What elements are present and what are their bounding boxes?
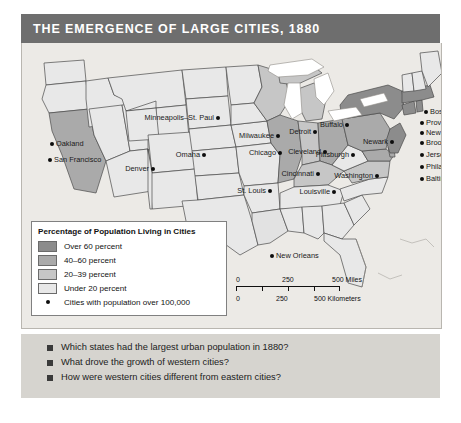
question-item: How were western cities different from e… [47,372,440,383]
legend-entry: 40–60 percent [38,254,220,266]
legend-entry-label: Over 60 percent [64,242,122,251]
question-item: Which states had the largest urban popul… [47,342,440,353]
legend-entry-label: 20–39 percent [64,270,116,279]
city-label: Baltimore [426,175,442,182]
city-dot-icon [420,153,424,157]
city-dot-icon [332,190,336,194]
city-label: Oakland [56,140,84,147]
city-dot-icon [375,174,379,178]
city-dot-icon [216,116,220,120]
scale-tick-label: 500 Miles [332,276,362,283]
city-dot-icon [420,131,424,135]
city-dot-icon [270,254,274,258]
city-dot-icon [351,153,355,157]
city-label: New York [426,129,442,136]
city-label: Detroit [22,128,311,135]
city-dot-icon [313,130,317,134]
legend-heading: Percentage of Population Living in Citie… [38,227,220,236]
legend-swatch [38,283,57,294]
city-label: Denver [22,165,149,172]
city-dot-icon [38,297,57,308]
question-text: Which states had the largest urban popul… [61,342,288,353]
city-dot-icon [151,167,155,171]
city-label: Philadelphia [426,163,442,170]
city-label: Buffalo [22,121,343,128]
city-label: San Francisco [54,156,101,163]
city-dot-icon [390,140,394,144]
city-dot-icon [48,158,52,162]
city-dot-icon [420,141,424,145]
scale-miles: 0 250 500 Miles [236,276,361,295]
title-banner: THE EMERGENCE OF LARGE CITIES, 1880 [21,14,440,43]
legend-entry-cities: Cities with population over 100,000 [38,296,220,308]
scale-tick-label: 250 [282,276,294,283]
question-text: What drove the growth of western cities? [61,357,229,368]
bullet-square-icon [47,375,53,381]
legend-swatch [38,241,57,252]
legend-swatch [38,255,57,266]
legend-entry: 20–39 percent [38,268,220,280]
scale-kilometers: 0 250 500 Kilometers [236,295,361,314]
city-label: Boston [430,108,442,115]
scale-tick-label: 0 [236,276,240,283]
legend-entry-list: Over 60 percent40–60 percent20–39 percen… [38,240,220,294]
city-label: Louisville [22,188,330,195]
city-label: Providence [426,119,442,126]
city-dot-icon [420,177,424,181]
map-legend: Percentage of Population Living in Citie… [31,221,227,316]
legend-entry: Over 60 percent [38,240,220,252]
legend-entry-label: Cities with population over 100,000 [64,298,190,307]
legend-swatch [38,269,57,280]
map-canvas: .st { stroke: #4a4a4a; stroke-width: 0.7… [21,43,442,329]
scale-tick-label: 0 [236,295,240,302]
page-title: THE EMERGENCE OF LARGE CITIES, 1880 [21,22,320,36]
scale-tick-label: 500 Kilometers [314,295,361,302]
scale-tick-label: 250 [276,295,288,302]
scale-bars: 0 250 500 Miles 0 250 500 Kilomete [236,276,361,314]
city-label: New Orleans [276,252,319,259]
city-dot-icon [424,110,428,114]
city-dot-icon [420,121,424,125]
city-dot-icon [420,165,424,169]
city-label: Jersey City [426,151,442,158]
legend-entry: Under 20 percent [38,282,220,294]
questions-panel: Which states had the largest urban popul… [21,334,440,398]
bullet-square-icon [47,360,53,366]
city-label: Brooklyn [426,139,442,146]
city-dot-icon [50,142,54,146]
question-text: How were western cities different from e… [61,372,281,383]
city-dot-icon [345,123,349,127]
question-item: What drove the growth of western cities? [47,357,440,368]
bullet-square-icon [47,345,53,351]
city-label: Washington [22,172,373,179]
map-figure: THE EMERGENCE OF LARGE CITIES, 1880 .st … [0,0,461,423]
legend-entry-label: 40–60 percent [64,256,116,265]
legend-entry-label: Under 20 percent [64,284,127,293]
